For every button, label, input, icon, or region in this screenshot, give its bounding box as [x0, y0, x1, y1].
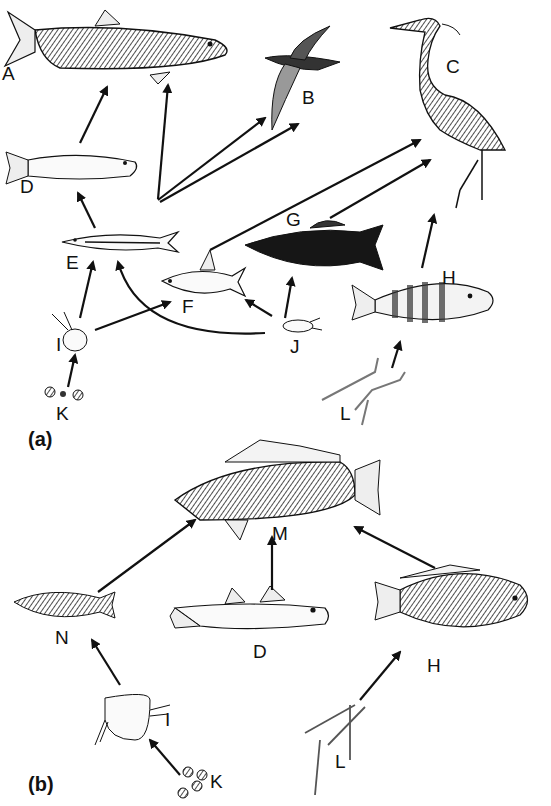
label-node-i-b: I — [165, 710, 170, 729]
label-node-k-b: K — [210, 772, 223, 791]
food-web-diagram — [0, 0, 551, 806]
fish-a-tarpon-icon — [5, 10, 227, 84]
plant-detritus-l-b-icon — [305, 705, 365, 795]
algae-k-b-icon — [178, 767, 207, 798]
fish-n-icon — [14, 592, 115, 618]
label-node-i: I — [56, 335, 61, 354]
label-node-h-b: H — [427, 656, 441, 675]
label-node-j: J — [290, 337, 300, 356]
label-node-b: B — [302, 88, 315, 107]
fish-f-icon — [162, 250, 245, 296]
bird-b-icon — [265, 26, 340, 130]
label-node-d-b: D — [253, 642, 267, 661]
panel-label-a: (a) — [28, 428, 52, 451]
fish-h-icon — [352, 282, 493, 323]
algae-k-icon — [45, 387, 83, 400]
fish-h-cichlid-icon — [375, 565, 528, 627]
label-node-d: D — [20, 177, 34, 196]
fish-e-icon — [62, 232, 178, 252]
label-node-c: C — [446, 57, 460, 76]
zooplankton-i-b-icon — [95, 694, 170, 745]
label-node-a: A — [2, 64, 15, 83]
label-node-e: E — [66, 253, 79, 272]
panel-label-b: (b) — [28, 773, 54, 796]
label-node-g: G — [286, 210, 301, 229]
insect-larva-j-icon — [283, 318, 322, 332]
label-node-k: K — [56, 404, 69, 423]
label-node-f: F — [182, 297, 194, 316]
heron-c-icon — [390, 18, 505, 208]
label-node-m: M — [272, 524, 288, 543]
label-node-n: N — [55, 628, 69, 647]
fish-d-goby-icon — [170, 586, 329, 629]
fish-g-icon — [245, 221, 383, 270]
label-node-h: H — [442, 268, 456, 287]
label-node-l: L — [340, 404, 351, 423]
label-node-l-b: L — [335, 752, 346, 771]
